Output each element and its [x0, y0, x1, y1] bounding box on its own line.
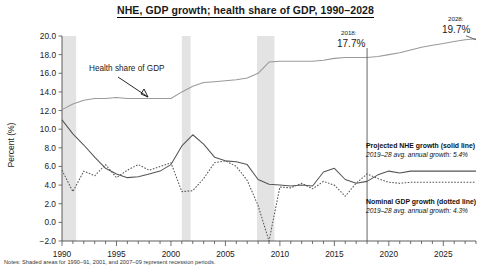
- x-tick-label: 1990: [53, 249, 72, 259]
- y-tick-label: 8.0: [44, 143, 56, 153]
- health-share-callout-label: Health share of GDP: [89, 64, 165, 73]
- y-tick-label: 14.0: [40, 87, 57, 97]
- annotation-2028-value: 19.7%: [442, 24, 470, 35]
- y-tick-label: 10.0: [40, 124, 57, 134]
- health-share-callout: Health share of GDP: [89, 64, 165, 97]
- annotation-2018-value: 17.7%: [337, 38, 365, 49]
- y-tick-label: 18.0: [40, 50, 57, 60]
- legend-gdp-title: Nominal GDP growth (dotted line): [366, 198, 476, 206]
- x-tick-labels: 19901995200020052010201520202025: [53, 249, 453, 259]
- x-tick-label: 2000: [162, 249, 181, 259]
- y-tick-label: 20.0: [40, 31, 57, 41]
- y-tick-label: 12.0: [40, 106, 57, 116]
- legend-nhe-subtitle: 2019–28 avg. annual growth: 5.4%: [365, 151, 468, 159]
- y-tick-label: 4.0: [44, 180, 56, 190]
- x-tick-label: 2005: [216, 249, 235, 259]
- chart-plot: 20.018.016.014.012.010.08.06.04.02.00.0−…: [0, 0, 491, 272]
- y-tick-label: 0.0: [44, 217, 56, 227]
- y-tick-label: 2.0: [44, 199, 56, 209]
- legend-nhe: Projected NHE growth (solid line) 2019–2…: [365, 142, 475, 159]
- y-tick-label: 6.0: [44, 161, 56, 171]
- annotation-2018: 2018: 17.7%: [337, 29, 365, 49]
- y-axis-title: Percent (%): [6, 122, 16, 167]
- recession-band: [62, 36, 76, 241]
- annotation-2018-label: 2018:: [341, 29, 357, 36]
- callout-arrow-head: [141, 89, 148, 97]
- x-tick-label: 2015: [325, 249, 344, 259]
- x-tick-label: 2025: [434, 249, 453, 259]
- callout-arrow-line: [118, 77, 148, 97]
- y-tick-label: −2.0: [40, 236, 57, 246]
- recession-band: [257, 36, 274, 241]
- y-tick-labels: 20.018.016.014.012.010.08.06.04.02.00.0−…: [40, 31, 57, 246]
- legend-gdp-subtitle: 2019–28 avg. annual growth: 4.3%: [365, 207, 468, 215]
- x-tick-label: 2010: [271, 249, 290, 259]
- legend-nhe-title: Projected NHE growth (solid line): [366, 142, 475, 150]
- y-tick-label: 16.0: [40, 68, 57, 78]
- x-tick-label: 1995: [107, 249, 126, 259]
- legend-gdp: Nominal GDP growth (dotted line) 2019–28…: [365, 198, 476, 215]
- chart-figure: NHE, GDP growth; health share of GDP, 19…: [0, 0, 491, 272]
- annotation-2028-label: 2028:: [448, 15, 464, 22]
- x-tick-label: 2020: [380, 249, 399, 259]
- chart-footnote: Notes: Shaded areas for 1990–91, 2001, a…: [4, 259, 215, 265]
- annotation-2028: 2028: 19.7%: [442, 15, 470, 35]
